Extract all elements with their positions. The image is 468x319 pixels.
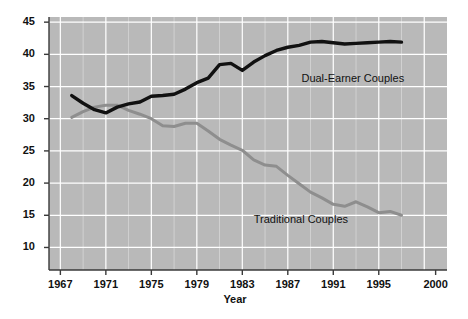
x-axis-tick-label: 1967: [40, 278, 80, 290]
x-axis-tick-label: 1979: [177, 278, 217, 290]
x-axis-tick-label: 1991: [313, 278, 353, 290]
y-axis-tick-label: 40: [13, 47, 35, 59]
line-chart-canvas: [0, 0, 468, 319]
x-axis-tick-label: 1983: [222, 278, 262, 290]
y-axis-tick-label: 10: [13, 240, 35, 252]
series-annotation-traditional-couples: Traditional Couples: [254, 213, 348, 225]
series-annotation-dual-earner-couples: Dual-Earner Couples: [301, 72, 404, 84]
y-axis-tick-label: 20: [13, 176, 35, 188]
x-axis-tick-label: 1987: [268, 278, 308, 290]
y-axis-tick-label: 30: [13, 112, 35, 124]
x-axis-tick-label: 1975: [131, 278, 171, 290]
x-axis-ticks: [60, 270, 435, 275]
x-axis-tick-label: 1971: [86, 278, 126, 290]
chart-figure: 4540353025201510 19671971197519791983198…: [0, 0, 468, 319]
y-axis-ticks: [44, 22, 49, 247]
x-axis-title: Year: [205, 293, 265, 305]
y-axis-tick-label: 35: [13, 80, 35, 92]
x-axis-tick-label: 1995: [359, 278, 399, 290]
x-axis-tick-label: 2000: [416, 278, 456, 290]
y-axis-tick-label: 45: [13, 15, 35, 27]
y-axis-tick-label: 25: [13, 144, 35, 156]
y-axis-tick-label: 15: [13, 208, 35, 220]
